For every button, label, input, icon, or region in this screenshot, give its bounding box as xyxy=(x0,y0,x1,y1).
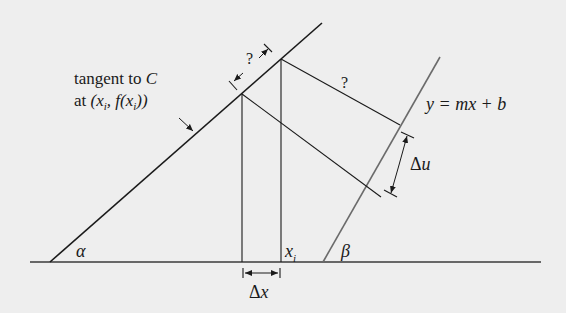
diagram-svg xyxy=(0,0,566,313)
x-var: x xyxy=(285,241,293,261)
tangent-label-line2: at (xi, f(xi)) xyxy=(74,92,148,112)
perpendicular-lower xyxy=(242,94,381,197)
i-sub: i xyxy=(293,252,296,264)
dimension-delta-x xyxy=(243,268,280,278)
u-var: u xyxy=(422,154,431,174)
delta-symbol: Δ xyxy=(410,154,422,174)
delta-x-label: Δx xyxy=(249,283,269,301)
tp-a: (x xyxy=(91,91,104,110)
x-i-label: xi xyxy=(285,242,296,264)
x-var: x xyxy=(261,282,269,302)
perpendicular-upper xyxy=(281,59,400,125)
tp-c: )) xyxy=(136,91,147,110)
tangent-point: (xi, f(xi)) xyxy=(91,91,148,110)
tp-b: , f(x xyxy=(107,91,133,110)
tangent-pointer-arrow xyxy=(179,118,193,131)
line-equation-label: y = mx + b xyxy=(426,95,506,113)
curve-name-c: C xyxy=(146,69,157,88)
alpha-angle-label: α xyxy=(76,242,85,260)
at-text: at xyxy=(74,91,91,110)
delta-symbol: Δ xyxy=(249,282,261,302)
diagram-canvas: tangent to C at (xi, f(xi)) ? ? y = mx +… xyxy=(0,0,566,313)
beta-angle-label: β xyxy=(341,242,350,260)
question-mark-mid: ? xyxy=(341,75,348,91)
tangent-text: tangent to xyxy=(74,69,146,88)
delta-u-label: Δu xyxy=(410,155,431,173)
tangent-label-line1: tangent to C xyxy=(74,70,157,87)
question-mark-top: ? xyxy=(246,51,253,67)
